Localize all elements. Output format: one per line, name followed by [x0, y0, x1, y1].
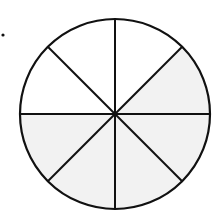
spokes: [20, 19, 210, 209]
fraction-circle-diagram: [0, 0, 216, 219]
bullet-dot: [1, 33, 4, 36]
